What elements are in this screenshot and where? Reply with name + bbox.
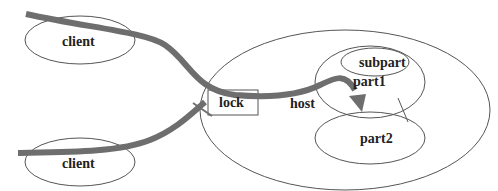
access-path-top	[26, 14, 355, 96]
part1-part2-connector	[398, 98, 408, 122]
diagram-canvas: client client host lock part1 subpart pa…	[0, 0, 498, 191]
host-label: host	[290, 96, 315, 111]
access-path-bottom	[18, 102, 205, 153]
client-top-label: client	[62, 34, 95, 49]
host-ellipse	[200, 30, 490, 190]
part2-label: part2	[360, 131, 393, 146]
part1-label: part1	[353, 74, 386, 89]
lock-label: lock	[219, 95, 244, 110]
client-bottom-label: client	[62, 156, 95, 171]
arrow-head-icon	[349, 94, 366, 112]
subpart-label: subpart	[359, 55, 406, 70]
